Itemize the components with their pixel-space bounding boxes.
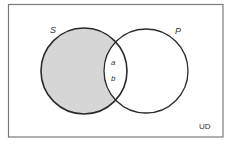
label-s: S [50,25,56,35]
label-region-b: b [111,74,116,83]
label-region-a: a [111,58,116,67]
label-universe: UD [199,122,211,131]
label-p: P [175,26,181,36]
venn-diagram: S P a b UD [0,0,231,146]
